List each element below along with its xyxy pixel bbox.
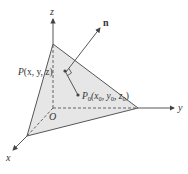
- x-axis-label: x: [5, 152, 11, 163]
- normal-vector: [66, 28, 100, 72]
- x-axis: [13, 136, 27, 150]
- point-p0: [76, 93, 79, 96]
- plane-normal-diagram: z y x O n P(x, y, z) P0(x0, y0, z0): [0, 0, 188, 174]
- normal-label: n: [103, 17, 109, 28]
- point-p: [63, 69, 66, 72]
- point-p-label: P(x, y, z): [17, 67, 53, 78]
- y-axis-label: y: [177, 102, 183, 113]
- origin-label: O: [49, 111, 56, 122]
- z-axis-label: z: [49, 6, 54, 17]
- plane-triangle: [27, 44, 138, 136]
